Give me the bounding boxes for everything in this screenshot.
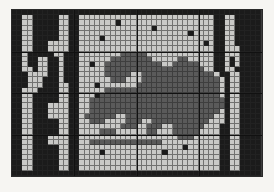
mosaic-canvas <box>0 0 274 192</box>
mosaic-grid[interactable] <box>12 10 262 176</box>
mosaic-cell <box>256 171 261 176</box>
